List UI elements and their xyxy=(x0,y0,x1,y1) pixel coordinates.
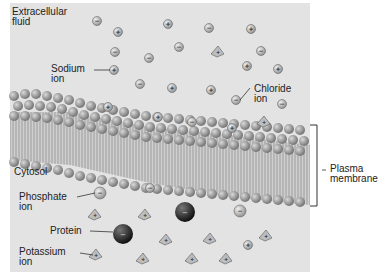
svg-text:−: − xyxy=(146,54,151,61)
svg-text:+: + xyxy=(164,237,168,243)
svg-text:+: + xyxy=(229,124,234,131)
svg-text:−: − xyxy=(237,207,242,214)
svg-text:+: + xyxy=(169,84,174,91)
svg-text:−: − xyxy=(176,43,181,50)
label-cytosol: Cytosol xyxy=(14,167,47,177)
membrane-bracket xyxy=(310,125,317,206)
svg-text:+: + xyxy=(244,62,249,69)
svg-text:−: − xyxy=(147,184,152,191)
label-phosphate-ion: Phosphate ion xyxy=(19,192,67,212)
svg-text:−: − xyxy=(94,17,99,24)
label-sodium-ion: Sodium ion xyxy=(51,64,85,84)
svg-text:−: − xyxy=(233,96,238,103)
svg-text:+: + xyxy=(245,241,250,248)
label-chloride-ion: Chloride ion xyxy=(254,84,291,104)
svg-text:+: + xyxy=(216,49,220,55)
svg-text:+: + xyxy=(275,65,280,72)
svg-text:−: − xyxy=(137,80,142,87)
svg-text:−: − xyxy=(206,24,211,31)
svg-text:+: + xyxy=(165,20,170,27)
label-extracellular-fluid: Extracellular fluid xyxy=(12,7,67,27)
svg-text:−: − xyxy=(112,48,117,55)
svg-text:−: − xyxy=(120,231,126,239)
svg-text:+: + xyxy=(155,113,160,120)
svg-text:+: + xyxy=(224,256,228,262)
svg-text:−: − xyxy=(97,189,102,196)
label-potassium-ion: Potassium ion xyxy=(19,247,66,267)
svg-text:+: + xyxy=(115,28,120,35)
svg-text:−: − xyxy=(189,118,194,125)
svg-text:+: + xyxy=(208,86,213,93)
svg-text:+: + xyxy=(248,25,253,32)
svg-text:+: + xyxy=(208,236,212,242)
label-plasma-membrane: Plasma membrane xyxy=(330,164,378,184)
svg-text:+: + xyxy=(190,256,194,262)
svg-text:+: + xyxy=(143,212,147,218)
svg-text:−: − xyxy=(258,47,263,54)
svg-text:+: + xyxy=(105,103,110,110)
svg-text:+: + xyxy=(93,212,97,218)
svg-text:+: + xyxy=(262,119,266,125)
svg-text:+: + xyxy=(141,256,145,262)
svg-text:−: − xyxy=(182,209,188,217)
svg-text:+: + xyxy=(94,252,98,258)
svg-text:+: + xyxy=(111,66,116,73)
label-protein: Protein xyxy=(50,226,82,236)
lipid-bilayer xyxy=(9,89,310,207)
svg-text:+: + xyxy=(264,233,268,239)
